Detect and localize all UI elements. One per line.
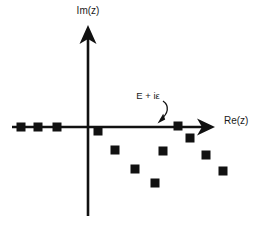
epsilon-annotation-label: E + iε: [136, 90, 160, 101]
complex-plane-pole-diagram: Im(z) Re(z) E + iε: [0, 0, 273, 226]
real-axis-label: Re(z): [224, 115, 248, 126]
pole-marker: [151, 179, 160, 188]
pole-marker: [111, 146, 120, 155]
imaginary-axis-label: Im(z): [77, 5, 100, 16]
imaginary-axis: [80, 25, 97, 216]
epsilon-annotation: E + iε: [136, 90, 167, 124]
pole-marker: [131, 165, 140, 174]
epsilon-annotation-arrowhead: [158, 114, 166, 124]
pole-marker-group: [17, 122, 228, 188]
pole-marker: [159, 147, 168, 156]
pole-marker: [34, 123, 43, 132]
pole-marker: [202, 151, 211, 160]
pole-marker: [53, 123, 62, 132]
pole-marker: [219, 167, 228, 176]
pole-marker: [186, 134, 195, 143]
figure-canvas: Im(z) Re(z) E + iε: [0, 0, 273, 226]
pole-marker: [174, 122, 183, 131]
pole-marker: [17, 123, 26, 132]
pole-marker: [94, 127, 103, 136]
